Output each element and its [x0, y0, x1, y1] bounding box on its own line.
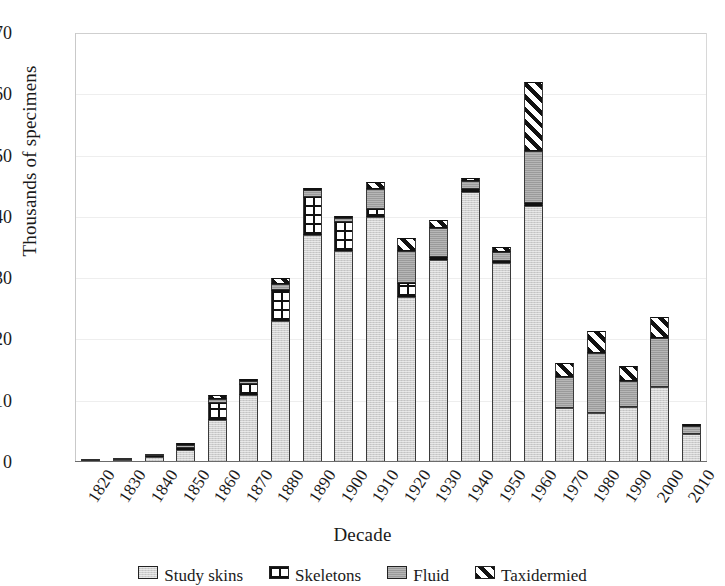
bar-segment-study-skins-2000: [650, 387, 669, 462]
bar-1900: [334, 33, 353, 462]
bar-segment-taxidermied-1990: [619, 366, 638, 380]
legend-item-taxidermied[interactable]: Taxidermied: [475, 566, 587, 586]
chart-legend: Study skinsSkeletonsFluidTaxidermied: [0, 566, 725, 586]
bar-1890: [303, 33, 322, 462]
bar-segment-skeletons-1850: [176, 448, 195, 450]
bar-segment-fluid-preserved-1980: [587, 353, 606, 413]
bar-segment-taxidermied-1950: [492, 247, 511, 252]
legend-item-study-skins[interactable]: Study skins: [138, 566, 243, 586]
bar-1960: [524, 33, 543, 462]
bar-segment-study-skins-1890: [303, 235, 322, 462]
bar-segment-skeletons-1920: [397, 283, 416, 296]
bar-1930: [429, 33, 448, 462]
bar-segment-taxidermied-1960: [524, 82, 543, 151]
bar-segment-taxidermied-1970: [555, 363, 574, 376]
bar-1950: [492, 33, 511, 462]
bar-segment-skeletons-1950: [492, 261, 511, 263]
bar-1910: [366, 33, 385, 462]
bar-1940: [461, 33, 480, 462]
bar-segment-taxidermied-1880: [271, 278, 290, 285]
bar-segment-study-skins-1920: [397, 297, 416, 462]
bar-segment-fluid-preserved-1860: [208, 399, 227, 403]
plot-frame-left: [75, 33, 76, 462]
bar-segment-study-skins-1860: [208, 420, 227, 462]
bar-segment-fluid-preserved-1900: [334, 218, 353, 222]
bar-segment-taxidermied-1930: [429, 220, 448, 228]
y-axis-tick-label: 30: [0, 269, 12, 287]
plot-frame-top: [75, 33, 707, 34]
y-axis-tick-label: 20: [0, 330, 12, 348]
bar-segment-study-skins-1930: [429, 260, 448, 462]
legend-swatch-icon: [269, 566, 289, 579]
bar-segment-fluid-preserved-1880: [271, 284, 290, 290]
bar-segment-fluid-preserved-1850: [176, 445, 195, 447]
bar-segment-study-skins-1940: [461, 192, 480, 462]
bar-segment-fluid-preserved-1890: [303, 190, 322, 197]
bar-segment-skeletons-1870: [239, 384, 258, 395]
bar-segment-skeletons-1860: [208, 403, 227, 420]
bar-segment-taxidermied-1900: [334, 216, 353, 218]
bar-segment-study-skins-1970: [555, 408, 574, 462]
bar-segment-fluid-preserved-1940: [461, 181, 480, 189]
bar-segment-study-skins-1880: [271, 321, 290, 462]
plot-frame-right: [706, 33, 707, 462]
bar-segment-fluid-preserved-1990: [619, 381, 638, 407]
bar-2000: [650, 33, 669, 462]
bar-segment-study-skins-1900: [334, 251, 353, 462]
bar-segment-skeletons-1960: [524, 203, 543, 206]
bar-segment-taxidermied-1980: [587, 331, 606, 353]
legend-swatch-icon: [138, 566, 158, 579]
y-axis-tick-label: 0: [0, 453, 12, 471]
y-axis-tick-label: 50: [0, 147, 12, 165]
bar-segment-taxidermied-1860: [208, 395, 227, 399]
bar-1840: [145, 33, 164, 462]
legend-item-skeletons[interactable]: Skeletons: [269, 566, 361, 586]
bar-segment-fluid-preserved-1840: [145, 454, 164, 456]
y-axis-tick-label: 70: [0, 24, 12, 42]
bar-1980: [587, 33, 606, 462]
bar-segment-study-skins-1910: [366, 217, 385, 462]
bar-1880: [271, 33, 290, 462]
bar-1870: [239, 33, 258, 462]
bar-segment-taxidermied-1890: [303, 188, 322, 190]
bar-segment-skeletons-1910: [366, 209, 385, 217]
bar-segment-study-skins-1980: [587, 413, 606, 462]
y-axis-title: Thousands of specimens: [19, 0, 41, 341]
bar-segment-fluid-preserved-2000: [650, 338, 669, 387]
plot-area: [75, 33, 707, 462]
bar-segment-taxidermied-1850: [176, 443, 195, 445]
bar-segment-taxidermied-2010: [682, 424, 701, 426]
legend-item-label: Skeletons: [295, 566, 361, 586]
bar-segment-study-skins-1950: [492, 263, 511, 462]
bar-1860: [208, 33, 227, 462]
bar-segment-fluid-preserved-1830: [113, 458, 132, 460]
x-axis-line: [75, 461, 707, 462]
legend-item-label: Study skins: [164, 566, 243, 586]
bar-segment-fluid-preserved-1960: [524, 151, 543, 203]
bar-1820: [81, 33, 100, 462]
legend-swatch-icon: [475, 566, 495, 579]
bar-segment-study-skins-1960: [524, 206, 543, 462]
bar-segment-skeletons-1890: [303, 197, 322, 236]
bar-segment-study-skins-1870: [239, 395, 258, 462]
bar-segment-fluid-preserved-1970: [555, 377, 574, 408]
bar-segment-taxidermied-1940: [461, 178, 480, 180]
bar-segment-skeletons-1930: [429, 257, 448, 259]
bar-segment-skeletons-1880: [271, 290, 290, 321]
legend-item-fluid[interactable]: Fluid: [387, 566, 449, 586]
bar-segment-taxidermied-1920: [397, 238, 416, 250]
y-axis-tick-label: 60: [0, 85, 12, 103]
bar-segment-fluid-preserved-1950: [492, 252, 511, 261]
bar-1830: [113, 33, 132, 462]
bar-segment-taxidermied-2000: [650, 317, 669, 338]
bar-segment-fluid-preserved-1920: [397, 251, 416, 283]
bar-segment-fluid-preserved-2010: [682, 426, 701, 435]
bar-segment-study-skins-2010: [682, 434, 701, 462]
bar-segment-skeletons-1940: [461, 189, 480, 193]
bar-1920: [397, 33, 416, 462]
bar-segment-skeletons-1900: [334, 222, 353, 250]
bar-2010: [682, 33, 701, 462]
bar-segment-taxidermied-1870: [239, 379, 258, 381]
bar-segment-fluid-preserved-1910: [366, 189, 385, 209]
